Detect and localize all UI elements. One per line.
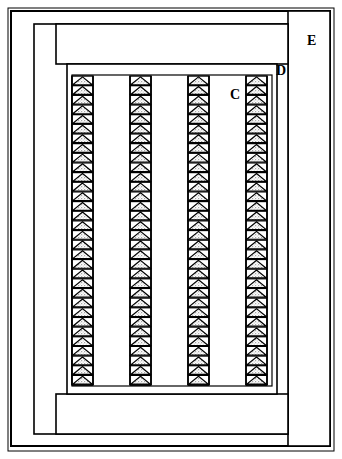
- triangle-column-2: [130, 76, 151, 385]
- figure-root: E D C: [0, 0, 342, 459]
- triangle-column-3: [188, 76, 209, 385]
- region-e-divider: [288, 11, 330, 446]
- callout-label-c: C: [230, 88, 240, 102]
- core-chamber-inner: [72, 75, 272, 386]
- lower-band: [56, 394, 288, 434]
- triangle-column-4: [246, 76, 267, 385]
- callout-label-e: E: [307, 34, 316, 48]
- callout-label-d: D: [276, 64, 286, 78]
- upper-band: [56, 24, 288, 64]
- technical-diagram-svg: [0, 0, 342, 459]
- triangle-column-1: [72, 76, 93, 385]
